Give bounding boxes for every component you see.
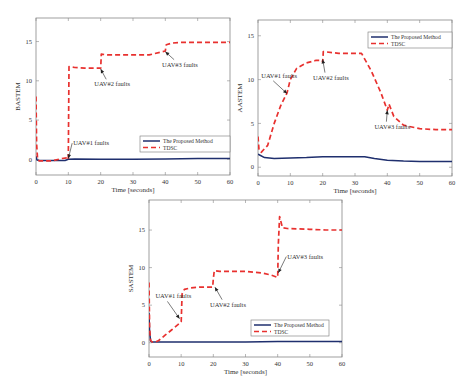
x-tick-label: 10 bbox=[178, 360, 185, 367]
legend-label-proposed: The Proposed Method bbox=[163, 138, 213, 144]
y-axis-label: AASTEM bbox=[236, 83, 244, 113]
x-tick-label: 30 bbox=[352, 179, 359, 186]
x-tick-label: 60 bbox=[227, 178, 234, 185]
subplot-bastem: 0102030405060051015Time [seconds]BASTEMU… bbox=[14, 18, 233, 194]
fault-annotation: UAV#3 faults bbox=[287, 253, 323, 260]
legend: The Proposed MethodTDSC bbox=[368, 32, 452, 48]
fault-annotation: UAV#1 faults bbox=[155, 292, 191, 299]
fault-annotation: UAV#3 faults bbox=[162, 61, 198, 68]
y-tick-label: 0 bbox=[29, 156, 32, 163]
fault-annotation: UAV#2 faults bbox=[210, 301, 246, 308]
x-tick-label: 20 bbox=[97, 178, 104, 185]
y-tick-label: 0 bbox=[251, 163, 254, 170]
legend-label-proposed: The Proposed Method bbox=[274, 322, 324, 328]
fault-annotation: UAV#2 faults bbox=[94, 80, 130, 87]
legend-label-tdsc: TDSC bbox=[391, 41, 406, 47]
x-tick-label: 20 bbox=[210, 360, 217, 367]
legend: The Proposed MethodTDSC bbox=[251, 320, 329, 336]
x-tick-label: 50 bbox=[416, 179, 423, 186]
x-tick-label: 0 bbox=[34, 178, 37, 185]
legend-label-tdsc: TDSC bbox=[274, 329, 289, 335]
x-tick-label: 20 bbox=[319, 179, 326, 186]
figure: 0102030405060051015Time [seconds]BASTEMU… bbox=[0, 0, 470, 392]
fault-annotation: UAV#1 faults bbox=[261, 72, 297, 79]
y-tick-label: 15 bbox=[248, 32, 255, 39]
x-tick-label: 50 bbox=[307, 360, 314, 367]
x-tick-label: 0 bbox=[147, 360, 150, 367]
x-tick-label: 60 bbox=[449, 179, 456, 186]
subplot-sastem: 0102030405060051015Time [seconds]SASTEMU… bbox=[127, 200, 345, 376]
x-tick-label: 10 bbox=[65, 178, 72, 185]
x-tick-label: 30 bbox=[130, 178, 137, 185]
y-axis-label: SASTEM bbox=[127, 264, 135, 292]
y-tick-label: 10 bbox=[248, 76, 255, 83]
x-tick-label: 40 bbox=[274, 360, 281, 367]
fault-annotation: UAV#3 faults bbox=[374, 123, 410, 130]
y-axis-label: BASTEM bbox=[14, 82, 22, 111]
y-tick-label: 10 bbox=[139, 264, 146, 271]
x-axis-label: Time [seconds] bbox=[111, 186, 154, 194]
y-tick-label: 0 bbox=[142, 339, 145, 346]
legend-label-tdsc: TDSC bbox=[163, 145, 178, 151]
y-tick-label: 15 bbox=[26, 38, 33, 45]
legend-label-proposed: The Proposed Method bbox=[391, 34, 441, 40]
fault-annotation: UAV#1 faults bbox=[73, 139, 109, 146]
x-tick-label: 30 bbox=[242, 360, 249, 367]
x-tick-label: 50 bbox=[194, 178, 201, 185]
fault-annotation: UAV#2 faults bbox=[313, 74, 349, 81]
y-tick-label: 5 bbox=[142, 301, 145, 308]
x-tick-label: 40 bbox=[162, 178, 169, 185]
x-tick-label: 10 bbox=[287, 179, 294, 186]
y-tick-label: 15 bbox=[139, 226, 146, 233]
y-tick-label: 5 bbox=[251, 120, 254, 127]
y-tick-label: 10 bbox=[26, 77, 33, 84]
x-axis-label: Time [seconds] bbox=[333, 187, 376, 195]
legend: The Proposed MethodTDSC bbox=[140, 136, 230, 152]
x-tick-label: 40 bbox=[384, 179, 391, 186]
y-tick-label: 5 bbox=[29, 116, 32, 123]
x-tick-label: 0 bbox=[256, 179, 259, 186]
x-axis-label: Time [seconds] bbox=[224, 368, 267, 376]
x-tick-label: 60 bbox=[339, 360, 346, 367]
